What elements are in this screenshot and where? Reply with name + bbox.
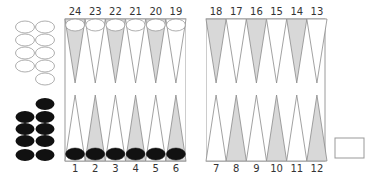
black-borne-off-checker (16, 123, 35, 135)
white-checker[interactable] (126, 19, 145, 31)
black-checker[interactable] (66, 148, 85, 160)
white-borne-off-checker (36, 73, 55, 85)
black-borne-off-checker (16, 135, 35, 147)
white-checker[interactable] (86, 19, 105, 31)
point-label: 12 (311, 163, 324, 174)
white-borne-off-checker (36, 60, 55, 72)
point-label: 22 (109, 6, 122, 17)
board-frame (65, 19, 325, 161)
black-checker[interactable] (166, 148, 185, 160)
backgammon-game: 241232223214205196187178169151014111312 (0, 0, 366, 177)
bar[interactable] (186, 19, 206, 161)
white-borne-off-checker (36, 47, 55, 59)
point-label: 13 (311, 6, 324, 17)
white-borne-off-checker (16, 60, 35, 72)
black-borne-off-checker (36, 135, 55, 147)
white-checker[interactable] (166, 19, 185, 31)
white-borne-off-checker (36, 34, 55, 46)
backgammon-board: 241232223214205196187178169151014111312 (0, 0, 366, 177)
point-label: 14 (290, 6, 303, 17)
point-label: 24 (69, 6, 82, 17)
black-checker[interactable] (86, 148, 105, 160)
point-label: 21 (129, 6, 142, 17)
white-borne-off-checker (16, 34, 35, 46)
point-label: 9 (253, 163, 259, 174)
point-label: 2 (92, 163, 98, 174)
point-label: 6 (173, 163, 179, 174)
white-checker[interactable] (106, 19, 125, 31)
white-borne-off-checker (16, 21, 35, 33)
black-borne-off-checker (36, 149, 55, 161)
left-half (65, 19, 186, 161)
dice-box[interactable] (335, 138, 364, 158)
right-half (206, 19, 325, 161)
black-checker[interactable] (146, 148, 165, 160)
point-label: 19 (170, 6, 183, 17)
white-checker[interactable] (146, 19, 165, 31)
black-borne-off-checker (36, 123, 55, 135)
point-label: 20 (149, 6, 162, 17)
point-label: 11 (290, 163, 303, 174)
point-label: 1 (72, 163, 78, 174)
black-checker[interactable] (126, 148, 145, 160)
black-borne-off-checker (16, 111, 35, 123)
black-borne-off-checker (36, 111, 55, 123)
white-borne-off-checker (16, 47, 35, 59)
point-label: 8 (233, 163, 239, 174)
point-label: 17 (230, 6, 243, 17)
borne-off-tray (16, 21, 55, 161)
point-label: 5 (153, 163, 159, 174)
white-checker[interactable] (66, 19, 85, 31)
point-label: 10 (270, 163, 283, 174)
white-borne-off-checker (36, 21, 55, 33)
black-checker[interactable] (106, 148, 125, 160)
point-label: 16 (250, 6, 263, 17)
point-label: 18 (210, 6, 223, 17)
black-borne-off-checker (36, 98, 55, 110)
point-label: 23 (89, 6, 102, 17)
point-label: 3 (112, 163, 118, 174)
point-label: 15 (270, 6, 283, 17)
black-borne-off-checker (16, 149, 35, 161)
point-label: 7 (213, 163, 219, 174)
point-label: 4 (132, 163, 138, 174)
